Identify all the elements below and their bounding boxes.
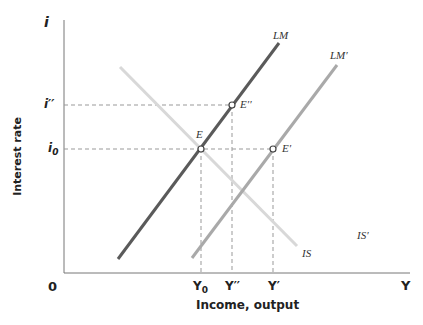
is-prime-label: IS′ [357, 229, 369, 241]
e-prime-label: E′ [282, 142, 291, 154]
x-axis-label: Income, output [196, 298, 299, 312]
point-e [198, 146, 204, 152]
y-double-prime-tick: Y′′ [225, 279, 240, 293]
y-axis-label: Interest rate [11, 117, 24, 196]
origin-label: 0 [48, 279, 57, 294]
islm-diagram [0, 0, 423, 325]
is-label: IS [302, 247, 311, 259]
e-label: E [196, 128, 203, 140]
lm-label: LM [273, 29, 288, 41]
point-e-double-prime [229, 102, 235, 108]
lm-prime-label: LM′ [330, 49, 348, 61]
x-axis-symbol: Y [401, 278, 410, 293]
e-double-prime-label: E′′ [240, 98, 252, 110]
i-double-prime-tick: i′′ [44, 97, 54, 111]
y0-tick: Y0 [193, 279, 208, 295]
i0-tick: i0 [48, 141, 58, 157]
y-axis-symbol: i [44, 14, 49, 30]
y-prime-tick: Y′ [268, 279, 280, 293]
point-e-prime [270, 146, 276, 152]
